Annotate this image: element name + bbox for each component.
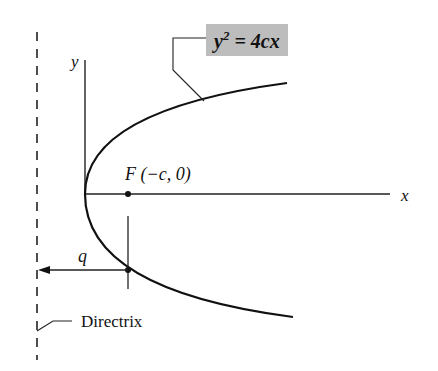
- arrowhead-icon: [38, 266, 50, 274]
- x-axis-label: x: [400, 186, 409, 205]
- parabola-curve: [85, 83, 293, 317]
- y-axis-label: y: [69, 52, 79, 71]
- distance-label: q: [78, 246, 87, 266]
- parabola-diagram: y2 = 4cx y x F (−c, 0) q Directrix: [0, 0, 438, 371]
- focus-point: [125, 191, 131, 197]
- focus-label: F (−c, 0): [124, 164, 191, 185]
- directrix-label: Directrix: [81, 312, 143, 331]
- equation-label: y2 = 4cx: [212, 28, 280, 53]
- directrix-leader-line: [37, 321, 72, 331]
